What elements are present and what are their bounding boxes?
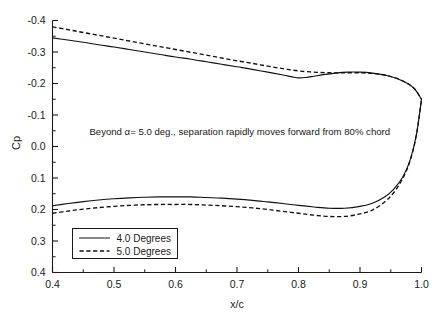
- x-tick-label: 0.4: [45, 278, 60, 290]
- chart-screenshot: 0.40.50.60.70.80.91.0 -0.4-0.3-0.2-0.10.…: [0, 0, 437, 324]
- x-axis-ticks: [53, 267, 422, 273]
- y-tick-label: 0.3: [31, 235, 46, 247]
- curve-4-0-degrees-upper: [53, 38, 422, 99]
- y-tick-label: 0.0: [31, 140, 46, 152]
- y-axis-ticks: [53, 21, 59, 273]
- y-tick-label: -0.4: [27, 14, 45, 26]
- x-tick-label: 1.0: [414, 278, 429, 290]
- x-axis-title: x/c: [230, 298, 243, 310]
- x-tick-label: 0.6: [168, 278, 183, 290]
- y-axis-title-text: Cp: [10, 136, 22, 150]
- y-tick-label: -0.1: [27, 109, 45, 121]
- curve-4-0-degrees-lower: [53, 99, 422, 208]
- x-tick-label: 0.7: [230, 278, 245, 290]
- y-tick-label: 0.4: [31, 266, 46, 278]
- x-tick-label: 0.9: [353, 278, 368, 290]
- data-curves: [53, 27, 422, 217]
- y-tick-label: 0.1: [31, 172, 46, 184]
- x-tick-label: 0.8: [291, 278, 306, 290]
- x-axis-tick-labels: 0.40.50.60.70.80.91.0: [45, 278, 429, 290]
- x-tick-label: 0.5: [107, 278, 122, 290]
- cp-distribution-chart: 0.40.50.60.70.80.91.0 -0.4-0.3-0.2-0.10.…: [0, 0, 437, 324]
- y-tick-label: -0.3: [27, 46, 45, 58]
- curve-5-0-degrees-upper: [53, 27, 422, 99]
- y-tick-label: -0.2: [27, 77, 45, 89]
- y-tick-label: 0.2: [31, 203, 46, 215]
- y-axis-tick-labels: -0.4-0.3-0.2-0.10.00.10.20.30.4: [27, 14, 45, 278]
- legend-label: 5.0 Degrees: [117, 246, 171, 257]
- chart-legend: 4.0 Degrees5.0 Degrees: [73, 229, 178, 259]
- y-axis-title: Cp: [10, 136, 22, 150]
- separation-annotation: Beyond α= 5.0 deg., separation rapidly m…: [89, 126, 390, 137]
- legend-label: 4.0 Degrees: [117, 233, 171, 244]
